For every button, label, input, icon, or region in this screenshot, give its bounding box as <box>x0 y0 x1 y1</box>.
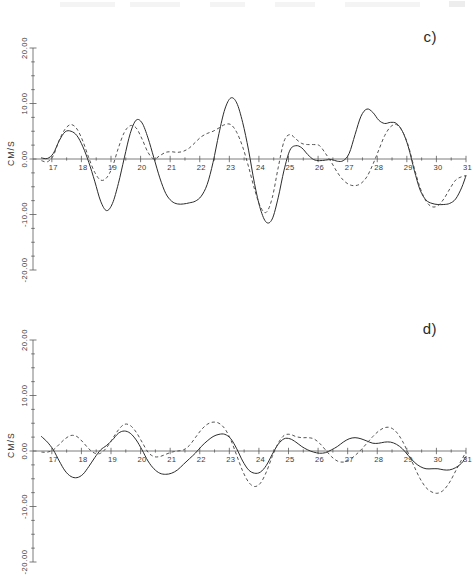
chart-panel-d: d) 20.0010.000.00-10.00-20.00CM/S1718192… <box>0 292 473 584</box>
x-tick-label: 21 <box>167 163 176 172</box>
value-axis-title: CM/S <box>6 432 16 458</box>
x-tick-label: 26 <box>315 455 324 464</box>
value-axis-title: CM/S <box>6 140 16 166</box>
y-tick-label: 10.00 <box>20 384 29 406</box>
x-tick-label: 20 <box>138 163 147 172</box>
series-line-dashed <box>41 124 466 213</box>
x-tick-label: 30 <box>433 455 442 464</box>
x-tick-label: 24 <box>256 163 265 172</box>
x-tick-label: 21 <box>167 455 176 464</box>
y-tick-label: -10.00 <box>20 202 29 227</box>
y-tick-label: -20.00 <box>20 549 29 574</box>
x-tick-label: 22 <box>197 455 206 464</box>
x-tick-label: 25 <box>285 455 294 464</box>
x-tick-label: 31 <box>463 163 472 172</box>
x-tick-label: 27 <box>345 163 354 172</box>
x-tick-label: 28 <box>374 163 383 172</box>
x-tick-label: 17 <box>49 163 58 172</box>
plot-area-c: 20.0010.000.00-10.00-20.00CM/S1718192021… <box>0 0 473 292</box>
y-tick-label: -10.00 <box>20 494 29 519</box>
x-tick-label: 23 <box>226 455 235 464</box>
x-tick-label: 23 <box>226 163 235 172</box>
x-tick-label: 29 <box>404 163 413 172</box>
chart-panel-c: c) 20.0010.000.00-10.00-20.00CM/S1718192… <box>0 0 473 292</box>
x-tick-label: 18 <box>78 455 87 464</box>
y-tick-label: 0.00 <box>20 150 29 167</box>
x-tick-label: 18 <box>78 163 87 172</box>
x-tick-label: 26 <box>315 163 324 172</box>
x-tick-label: 22 <box>197 163 206 172</box>
y-tick-label: 0.00 <box>20 442 29 459</box>
x-tick-label: 25 <box>285 163 294 172</box>
x-tick-label: 19 <box>108 455 117 464</box>
y-tick-label: -20.00 <box>20 257 29 282</box>
series-line-solid <box>41 431 466 478</box>
x-tick-label: 30 <box>433 163 442 172</box>
y-tick-label: 10.00 <box>20 92 29 114</box>
series-line-solid <box>41 98 466 223</box>
x-tick-label: 28 <box>374 455 383 464</box>
y-tick-label: 20.00 <box>20 37 29 59</box>
series-line-dashed <box>41 422 466 493</box>
y-tick-label: 20.00 <box>20 329 29 351</box>
plot-area-d: 20.0010.000.00-10.00-20.00CM/S1718192021… <box>0 292 473 584</box>
x-tick-label: 27 <box>345 455 354 464</box>
x-tick-label: 24 <box>256 455 265 464</box>
